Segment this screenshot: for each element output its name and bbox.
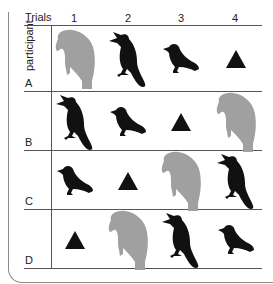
trial-col-1: 1 bbox=[64, 12, 84, 24]
row-label-c: C bbox=[25, 195, 33, 207]
cardinal-silhouette-icon bbox=[215, 151, 257, 211]
parrot-silhouette-icon bbox=[213, 92, 259, 152]
header-divider bbox=[24, 25, 262, 26]
finch-silhouette-icon bbox=[161, 41, 201, 77]
participant-axis-label: participant bbox=[23, 20, 35, 71]
finch-silhouette-icon bbox=[108, 104, 148, 140]
parrot-silhouette-icon bbox=[52, 29, 98, 89]
triangle-icon bbox=[117, 171, 139, 191]
parrot-silhouette-icon bbox=[105, 210, 151, 270]
triangle-icon bbox=[64, 230, 86, 250]
trial-col-4: 4 bbox=[225, 12, 245, 24]
cardinal-silhouette-icon bbox=[54, 92, 96, 152]
parrot-silhouette-icon bbox=[158, 151, 204, 211]
finch-silhouette-icon bbox=[216, 222, 256, 258]
trial-col-3: 3 bbox=[171, 12, 191, 24]
cardinal-silhouette-icon bbox=[107, 29, 149, 89]
finch-silhouette-icon bbox=[55, 163, 95, 199]
row-label-d: D bbox=[25, 254, 33, 266]
row-label-a: A bbox=[25, 77, 32, 89]
trial-col-2: 2 bbox=[118, 12, 138, 24]
triangle-icon bbox=[170, 112, 192, 132]
row-label-b: B bbox=[25, 136, 32, 148]
cardinal-silhouette-icon bbox=[160, 210, 202, 270]
triangle-icon bbox=[225, 49, 247, 69]
